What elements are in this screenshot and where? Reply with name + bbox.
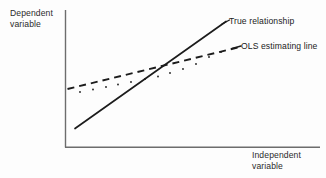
x-axis-label-line2: variable bbox=[252, 161, 301, 172]
data-point bbox=[144, 78, 146, 80]
x-axis-label: Independent variable bbox=[252, 150, 301, 172]
y-axis-label-line1: Dependent bbox=[10, 8, 53, 19]
data-point bbox=[182, 68, 184, 70]
data-point bbox=[117, 84, 119, 86]
figure-scatter-true-vs-ols: Dependent variable Independent variable … bbox=[0, 0, 326, 178]
data-point bbox=[169, 72, 171, 74]
data-point bbox=[220, 51, 222, 53]
y-axis-label-line2: variable bbox=[10, 19, 53, 30]
y-axis-label: Dependent variable bbox=[10, 8, 53, 30]
data-point bbox=[195, 63, 197, 65]
data-point bbox=[92, 89, 94, 91]
data-point bbox=[157, 76, 159, 78]
true-relationship-line bbox=[75, 22, 226, 129]
data-point bbox=[208, 56, 210, 58]
ols-estimating-line bbox=[68, 48, 239, 90]
ols-estimating-line-label: OLS estimating line bbox=[241, 41, 317, 52]
x-axis-label-line1: Independent bbox=[252, 150, 301, 161]
data-point bbox=[130, 81, 132, 83]
data-point bbox=[105, 86, 107, 88]
data-point bbox=[79, 91, 81, 93]
true-relationship-label: True relationship bbox=[229, 16, 294, 27]
